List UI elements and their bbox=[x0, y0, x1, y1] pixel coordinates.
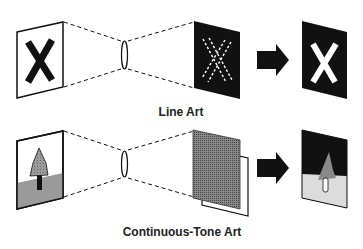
output-negative-panel bbox=[302, 21, 347, 99]
camera-process-diagram bbox=[0, 0, 363, 249]
projection-lines bbox=[64, 131, 194, 197]
halftone-screen-and-film bbox=[193, 130, 248, 216]
halftone-negative-panel bbox=[302, 130, 347, 208]
arrow-right-icon bbox=[257, 44, 289, 76]
continuous-tone-row bbox=[17, 130, 347, 216]
original-photo-panel bbox=[17, 131, 63, 209]
film-negative-panel bbox=[194, 21, 240, 99]
line-art-label: Line Art bbox=[159, 105, 204, 119]
halftone-screen bbox=[193, 130, 240, 209]
line-art-row bbox=[17, 21, 347, 99]
continuous-tone-art-label: Continuous-Tone Art bbox=[123, 225, 242, 239]
lens-icon bbox=[122, 41, 128, 69]
projection-lines bbox=[64, 22, 194, 88]
original-artwork-panel bbox=[17, 22, 63, 98]
arrow-right-icon bbox=[257, 152, 289, 184]
lens-icon bbox=[122, 151, 128, 177]
